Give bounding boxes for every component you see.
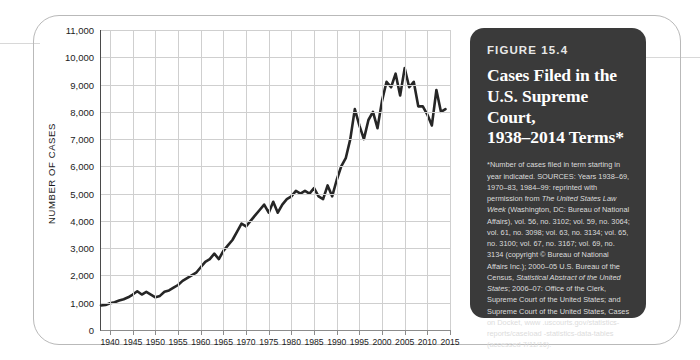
x-tick-label: 1955 — [168, 337, 187, 347]
figure-number: FIGURE 15.4 — [487, 44, 631, 56]
figure-title-line: 1938–2014 Terms* — [487, 127, 631, 148]
x-tick-mark — [223, 330, 224, 335]
y-gridline — [101, 248, 450, 249]
x-tick-label: 1945 — [123, 337, 142, 347]
y-gridline — [101, 112, 450, 113]
y-tick-label: 6,000 — [70, 161, 94, 172]
plot-region: 01,0002,0003,0004,0005,0006,0007,0008,00… — [100, 30, 450, 331]
x-gridline — [246, 30, 247, 330]
y-tick-label: 2,000 — [70, 270, 94, 281]
x-tick-mark — [359, 330, 360, 335]
x-tick-mark — [110, 330, 111, 335]
x-tick-label: 1980 — [282, 337, 301, 347]
x-gridline — [337, 30, 338, 330]
cases-filed-line-series — [101, 30, 450, 330]
x-tick-label: 2015 — [440, 337, 459, 347]
x-gridline — [178, 30, 179, 330]
y-tick-label: 9,000 — [70, 79, 94, 90]
figure-caption-panel: FIGURE 15.4 Cases Filed in the U.S. Supr… — [470, 28, 646, 318]
x-tick-label: 1960 — [191, 337, 210, 347]
x-tick-mark — [269, 330, 270, 335]
y-tick-label: 3,000 — [70, 243, 94, 254]
x-gridline — [291, 30, 292, 330]
y-gridline — [101, 275, 450, 276]
x-gridline — [155, 30, 156, 330]
x-tick-mark — [450, 330, 451, 335]
y-gridline — [101, 221, 450, 222]
x-tick-mark — [337, 330, 338, 335]
x-tick-mark — [427, 330, 428, 335]
y-gridline — [101, 303, 450, 304]
y-axis-title: NUMBER OF CASES — [46, 74, 57, 274]
x-tick-label: 1965 — [214, 337, 233, 347]
x-gridline — [201, 30, 202, 330]
x-tick-label: 1995 — [350, 337, 369, 347]
x-tick-mark — [201, 330, 202, 335]
x-gridline — [314, 30, 315, 330]
x-tick-label: 2000 — [372, 337, 391, 347]
x-gridline — [223, 30, 224, 330]
x-gridline — [382, 30, 383, 330]
x-tick-mark — [178, 330, 179, 335]
x-tick-label: 1950 — [146, 337, 165, 347]
y-tick-label: 8,000 — [70, 106, 94, 117]
y-gridline — [101, 166, 450, 167]
x-tick-label: 1975 — [259, 337, 278, 347]
x-tick-label: 2010 — [418, 337, 437, 347]
x-tick-mark — [382, 330, 383, 335]
figure-title: Cases Filed in the U.S. Supreme Court, 1… — [487, 65, 631, 148]
x-tick-mark — [133, 330, 134, 335]
y-tick-label: 0 — [89, 325, 94, 336]
x-tick-label: 1970 — [236, 337, 255, 347]
x-tick-mark — [291, 330, 292, 335]
figure-source-note: *Number of cases filed in term starting … — [487, 159, 631, 350]
figure-title-line: U.S. Supreme Court, — [487, 86, 631, 128]
y-tick-label: 11,000 — [66, 25, 94, 36]
x-tick-label: 1990 — [327, 337, 346, 347]
y-gridline — [101, 30, 450, 31]
x-gridline — [269, 30, 270, 330]
x-tick-label: 2005 — [395, 337, 414, 347]
x-gridline — [359, 30, 360, 330]
y-gridline — [101, 139, 450, 140]
x-tick-label: 1940 — [101, 337, 120, 347]
x-gridline — [405, 30, 406, 330]
chart-area: NUMBER OF CASES 01,0002,0003,0004,0005,0… — [0, 0, 470, 360]
y-tick-label: 4,000 — [70, 215, 94, 226]
y-tick-label: 5,000 — [70, 188, 94, 199]
x-gridline — [133, 30, 134, 330]
x-tick-mark — [314, 330, 315, 335]
y-gridline — [101, 194, 450, 195]
sources-suffix: ; 2006–07: Office of the Clerk, Supreme … — [487, 284, 629, 349]
y-gridline — [101, 85, 450, 86]
y-gridline — [101, 57, 450, 58]
y-tick-label: 1,000 — [70, 297, 94, 308]
x-gridline — [450, 30, 451, 330]
figure-title-line: Cases Filed in the — [487, 65, 631, 86]
x-tick-mark — [246, 330, 247, 335]
x-tick-label: 1985 — [304, 337, 323, 347]
sources-middle: (Washington, DC: Bureau of National Affa… — [487, 205, 630, 282]
x-tick-mark — [155, 330, 156, 335]
x-gridline — [427, 30, 428, 330]
x-tick-mark — [405, 330, 406, 335]
y-tick-label: 7,000 — [70, 134, 94, 145]
y-tick-label: 10,000 — [65, 52, 94, 63]
x-gridline — [110, 30, 111, 330]
